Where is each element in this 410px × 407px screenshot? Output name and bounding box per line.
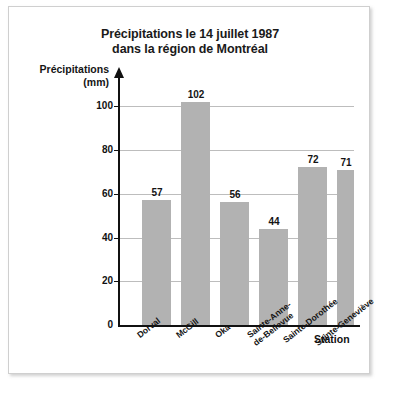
y-tick-label-60: 60 (85, 188, 113, 199)
bar-value-dorval: 57 (137, 187, 177, 198)
bar-value-oka: 56 (215, 189, 255, 200)
y-tick-mark-80 (114, 150, 118, 151)
bar-value-sainte-genevieve: 71 (326, 157, 366, 168)
x-axis-label: Station (314, 333, 350, 345)
bar-sainte-genevieve[interactable] (337, 170, 354, 325)
y-tick-label-80: 80 (85, 144, 113, 155)
bar-dorval[interactable] (142, 200, 171, 325)
y-tick-label-40: 40 (85, 232, 113, 243)
y-tick-mark-100 (114, 106, 118, 107)
bar-oka[interactable] (220, 202, 249, 325)
gridline-100 (119, 106, 354, 107)
y-tick-mark-40 (114, 238, 118, 239)
chart-page-card: Précipitations le 14 juillet 1987 dans l… (8, 6, 370, 374)
bar-sainte-dorothee[interactable] (298, 167, 327, 325)
y-tick-label-100: 100 (85, 100, 113, 111)
plot-area: 100 80 60 40 20 0 57 102 56 44 72 71 Dor… (9, 7, 371, 375)
y-tick-mark-20 (114, 281, 118, 282)
y-tick-label-20: 20 (85, 275, 113, 286)
bar-value-sainte-anne-de-bellevue: 44 (254, 216, 294, 227)
bar-value-mcgill: 102 (176, 89, 216, 100)
gridline-80 (119, 150, 354, 151)
y-tick-mark-60 (114, 194, 118, 195)
bar-mcgill[interactable] (181, 102, 210, 325)
y-axis-line (118, 77, 120, 326)
y-tick-label-0: 0 (85, 319, 113, 330)
